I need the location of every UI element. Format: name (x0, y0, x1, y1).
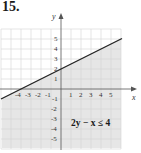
svg-text:-2: -2 (35, 91, 41, 99)
y-axis-label: y (51, 12, 56, 21)
svg-text:3: 3 (54, 55, 58, 63)
svg-text:5: 5 (54, 35, 58, 43)
svg-text:-4: -4 (15, 91, 21, 99)
svg-text:-3: -3 (25, 91, 31, 99)
svg-text:2: 2 (54, 65, 58, 73)
svg-text:1: 1 (54, 75, 58, 83)
svg-text:-5: -5 (51, 135, 57, 143)
svg-text:-2: -2 (51, 105, 57, 113)
y-axis-arrow-icon (59, 13, 64, 19)
svg-text:-4: -4 (51, 125, 57, 133)
svg-text:4: 4 (99, 91, 103, 99)
svg-text:-1: -1 (52, 95, 58, 103)
svg-text:-3: -3 (51, 115, 57, 123)
svg-text:4: 4 (54, 45, 58, 53)
inequality-graph: x y -4 -3 -2 -1 1 2 3 4 5 5 4 3 2 1 -1 -… (0, 0, 141, 153)
svg-text:3: 3 (89, 91, 93, 99)
svg-text:5: 5 (109, 91, 113, 99)
svg-text:1: 1 (69, 91, 73, 99)
x-axis-arrow-icon (131, 87, 137, 92)
inequality-label: 2y − x ≤ 4 (71, 118, 110, 128)
svg-text:-1: -1 (45, 91, 51, 99)
x-axis-label: x (131, 93, 136, 102)
svg-text:2: 2 (79, 91, 83, 99)
